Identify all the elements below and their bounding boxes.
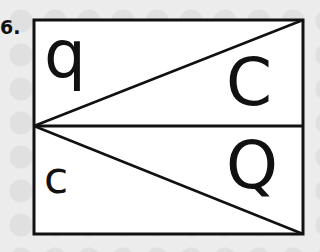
bottom-right-letter: Q xyxy=(226,133,278,199)
bottom-left-letter: c xyxy=(44,156,68,200)
top-left-letter: q xyxy=(44,22,86,88)
top-right-letter: C xyxy=(226,50,272,116)
